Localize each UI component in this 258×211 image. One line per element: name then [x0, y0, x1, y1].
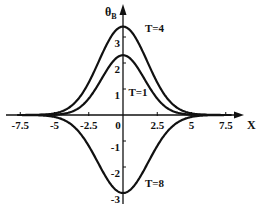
- y-tick-label: 3: [115, 37, 121, 49]
- x-tick-label: 7.5: [219, 119, 233, 131]
- annotation-t1: T=1: [128, 86, 147, 98]
- x-tick-label: 2.5: [150, 119, 164, 131]
- x-tick-label: -2.5: [80, 119, 98, 131]
- y-axis-label: θB: [105, 5, 117, 21]
- y-tick-label: 1: [115, 89, 121, 101]
- x-axis-label: X: [247, 118, 256, 132]
- x-tick-label: -5: [50, 119, 60, 131]
- axes: [6, 4, 244, 204]
- annotation-t4: T=4: [145, 22, 165, 34]
- x-tick-label: -7.5: [12, 119, 30, 131]
- chart: -7.5-5-2.502.557.5-3-2-1123XθBT=1T=4T=8: [0, 0, 258, 211]
- y-tick-label: 2: [115, 63, 121, 75]
- y-tick-label: -2: [111, 167, 121, 179]
- curves: [18, 27, 232, 193]
- x-axis-arrow-icon: [234, 112, 244, 119]
- annotation-t8: T=8: [145, 177, 165, 189]
- curve-t4: [18, 27, 232, 115]
- y-tick-label: -3: [111, 193, 121, 205]
- y-axis-arrow-icon: [120, 4, 127, 15]
- y-tick-label: -1: [111, 141, 120, 153]
- x-tick-label: 5: [189, 119, 195, 131]
- curve-t1: [18, 55, 232, 115]
- x-tick-label: 0: [115, 119, 121, 131]
